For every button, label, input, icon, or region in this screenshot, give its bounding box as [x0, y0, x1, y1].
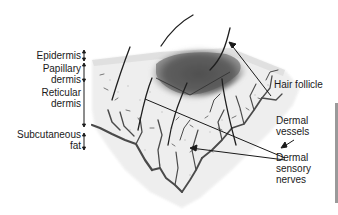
label-hair-follicle-text: Hair follicle: [274, 79, 323, 90]
layer-brackets: [83, 50, 86, 150]
label-epidermis-text: Epidermis: [37, 50, 81, 61]
label-subcutaneous-line1: Subcutaneous: [17, 129, 81, 140]
label-hair-follicle: Hair follicle: [274, 79, 323, 90]
label-nerves-line3: nerves: [276, 174, 311, 185]
label-reticular-dermis: Reticular dermis: [42, 87, 81, 109]
skin-diagram: Epidermis Papillary dermis Reticular der…: [0, 0, 338, 215]
label-nerves-line2: sensory: [276, 163, 311, 174]
label-reticular-line1: Reticular: [42, 87, 81, 98]
label-dermal-sensory-nerves: Dermal sensory nerves: [276, 152, 311, 185]
label-dermal-vessels-line2: vessels: [276, 126, 309, 137]
label-subcutaneous-fat: Subcutaneous fat: [17, 129, 81, 151]
label-epidermis: Epidermis: [37, 50, 81, 61]
label-reticular-line2: dermis: [42, 98, 81, 109]
label-papillary-line1: Papillary: [43, 63, 81, 74]
label-papillary-dermis: Papillary dermis: [43, 63, 81, 85]
label-subcutaneous-line2: fat: [17, 140, 81, 151]
label-nerves-line1: Dermal: [276, 152, 311, 163]
label-dermal-vessels-line1: Dermal: [276, 115, 309, 126]
label-dermal-vessels: Dermal vessels: [276, 115, 309, 137]
label-papillary-line2: dermis: [43, 74, 81, 85]
